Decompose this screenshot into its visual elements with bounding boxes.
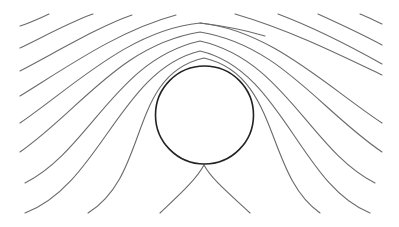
cylinder-circle [156,66,254,164]
streamline-diagram [0,0,399,227]
